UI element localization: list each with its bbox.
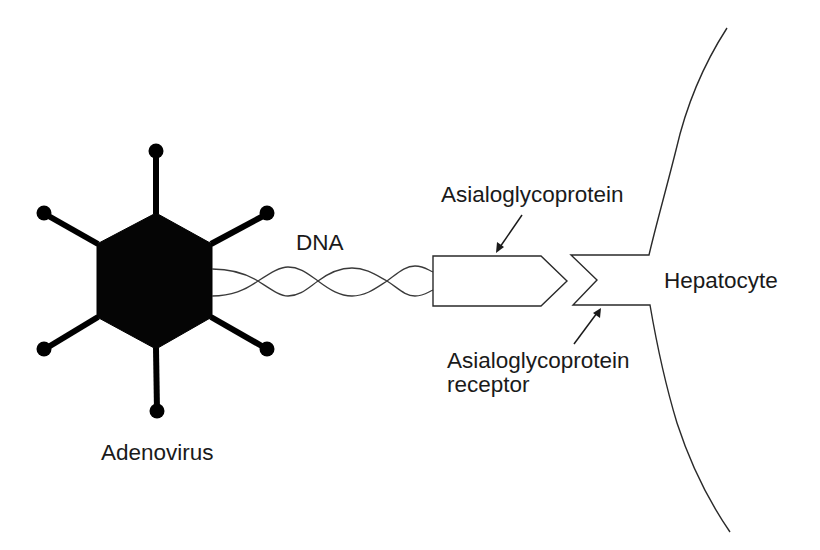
dna-strands xyxy=(212,266,433,296)
fiber-upper-left xyxy=(45,214,98,244)
fiber-lower-left xyxy=(45,317,98,349)
label-dna: DNA xyxy=(296,230,344,255)
knob-icon xyxy=(260,342,275,357)
label-receptor-line1: Asialoglycoprotein xyxy=(447,348,630,373)
dna-strand-b xyxy=(212,266,433,296)
receptor-pointer-arrow xyxy=(574,308,601,344)
diagram-canvas: DNA Asialoglycoprotein Asialoglycoprotei… xyxy=(0,0,820,550)
adenovirus xyxy=(37,144,275,419)
arrow-line xyxy=(500,215,522,247)
label-asialoglycoprotein: Asialoglycoprotein xyxy=(441,182,624,207)
fiber-upper-right xyxy=(211,214,267,244)
knob-icon xyxy=(149,144,164,159)
knob-icon xyxy=(150,404,165,419)
capsid-hexagon-icon xyxy=(97,213,212,349)
knob-icon xyxy=(260,206,275,221)
label-hepatocyte: Hepatocyte xyxy=(664,268,778,293)
knob-icon xyxy=(37,342,52,357)
fiber-lower-right xyxy=(211,317,267,349)
label-adenovirus: Adenovirus xyxy=(101,440,214,465)
arrow-line xyxy=(574,313,597,344)
ligand-pointer-arrow xyxy=(496,215,522,253)
fiber-bottom xyxy=(156,348,157,411)
label-receptor-line2: receptor xyxy=(447,372,530,397)
knob-icon xyxy=(37,206,52,221)
asialoglycoprotein-block xyxy=(433,256,567,306)
